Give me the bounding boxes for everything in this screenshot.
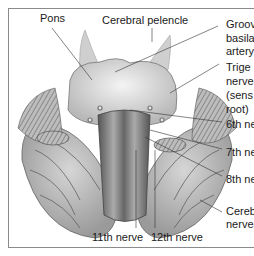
label-seventh-nerve: 7th ne (226, 146, 254, 158)
label-sixth-nerve: 6th ne (226, 118, 254, 130)
label-pons: Pons (40, 12, 65, 24)
label-groove-basilar-1: Groov (226, 18, 254, 30)
label-groove-basilar-3: artery (226, 45, 254, 57)
label-cerebellar-2: nerve (226, 218, 254, 230)
label-eleventh-nerve: 11th nerve (92, 231, 143, 243)
label-trigeminal-3: (sens (226, 89, 253, 101)
medulla (98, 110, 150, 222)
label-trigeminal-4: root) (226, 103, 249, 115)
label-cerebral-peduncle: Cerebral pelencle (102, 14, 188, 26)
label-eighth-nerve: 8th ne (226, 173, 254, 185)
label-trigeminal-2: nerve (226, 75, 254, 87)
label-groove-basilar-2: basila (226, 32, 254, 44)
label-trigeminal-1: Trige (226, 61, 251, 73)
label-cerebellar-1: Cereb (226, 205, 254, 217)
brainstem-illustration (0, 0, 254, 256)
label-twelfth-nerve: 12th nerve (151, 231, 203, 243)
